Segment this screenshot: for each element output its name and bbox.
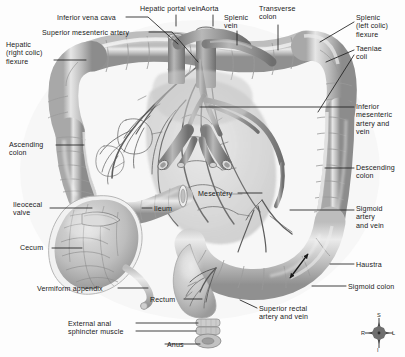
label-descending-colon: Descending colon (356, 164, 395, 181)
label-hepatic-portal-vein: Hepatic portal vein (140, 5, 201, 13)
anatomy-illustration (0, 0, 405, 357)
label-inferior-mesenteric-artery-and-vein: Inferior mesenteric artery and vein (356, 103, 392, 137)
label-superior-mesenteric-artery: Superior mesenteric artery (42, 29, 129, 37)
label-rectum: Rectum (150, 296, 175, 304)
label-ileum: Ileum (154, 205, 172, 213)
compass-inferior-label: I (377, 347, 379, 353)
label-haustra: Haustra (356, 261, 382, 269)
compass-star-icon (360, 309, 404, 355)
label-splenic-vein: Splenic vein (224, 14, 248, 31)
label-ileocecal-valve: Ileocecal valve (13, 201, 42, 218)
label-sigmoid-artery-and-vein: Sigmoid artery and vein (356, 205, 384, 230)
label-cecum: Cecum (20, 244, 43, 252)
orientation-compass: S I R L (360, 309, 404, 355)
label-splenic-left-colic-flexure: Splenic (left colic) flexure (356, 14, 388, 39)
label-hepatic-right-colic-flexure: Hepatic (right colic) flexure (6, 41, 43, 66)
label-aorta: Aorta (201, 5, 219, 13)
label-transverse-colon: Transverse colon (259, 5, 296, 22)
compass-left-label: L (392, 330, 395, 336)
label-anus: Anus (167, 341, 184, 349)
label-inferior-vena-cava: Inferior vena cava (57, 14, 116, 22)
label-taeniae-coli: Taeniae coli (356, 45, 382, 62)
anatomy-figure: Inferior vena cavaHepatic portal veinAor… (0, 0, 405, 357)
label-sigmoid-colon: Sigmoid colon (348, 283, 394, 291)
label-external-anal-sphincter-muscle: External anal sphincter muscle (68, 320, 124, 337)
label-superior-rectal-artery-and-vein: Superior rectal artery and vein (259, 305, 308, 322)
compass-right-label: R (361, 330, 365, 336)
label-ascending-colon: Ascending colon (9, 141, 43, 158)
label-mesentery: Mesentery (198, 190, 232, 198)
label-vermiform-appendix: Vermiform appendix (37, 285, 103, 293)
compass-superior-label: S (377, 312, 381, 318)
